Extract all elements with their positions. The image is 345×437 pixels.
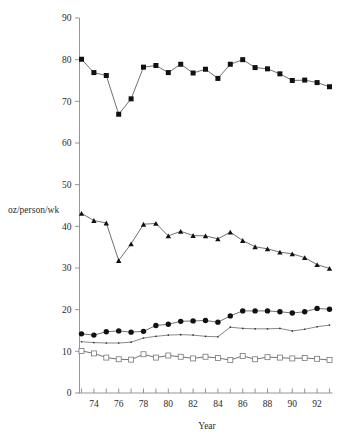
data-point-series-open-square-90: [290, 356, 295, 361]
data-point-series-filled-square-76: [116, 112, 121, 117]
data-point-series-open-square-78: [141, 352, 146, 357]
data-point-series-thin-dot-81: [180, 334, 182, 336]
data-point-series-thin-dot-85: [229, 326, 231, 328]
series-open-square: [79, 348, 332, 362]
data-point-series-filled-square-78: [141, 65, 146, 70]
data-point-series-open-square-93: [327, 358, 332, 363]
data-point-series-filled-square-90: [290, 78, 295, 83]
data-point-series-thin-dot-91: [304, 328, 306, 330]
data-point-series-thin-dot-74: [93, 342, 95, 344]
data-point-series-open-square-82: [191, 356, 196, 361]
series-filled-circle: [79, 306, 332, 338]
data-point-series-open-square-92: [315, 356, 320, 361]
y-tick-label-30: 30: [62, 263, 72, 273]
data-point-series-filled-circle-76: [116, 328, 121, 333]
y-axis-title: oz/person/wk: [8, 205, 59, 215]
data-point-series-filled-triangle-81: [178, 229, 183, 234]
x-tick-label-80: 80: [164, 399, 174, 409]
x-tick-label-76: 76: [114, 399, 124, 409]
series-thin-dot: [81, 324, 331, 344]
data-point-series-open-square-84: [215, 356, 220, 361]
data-point-series-open-square-85: [228, 358, 233, 363]
series-layer: [79, 57, 332, 363]
data-point-series-filled-square-87: [253, 65, 258, 70]
data-point-series-open-square-79: [153, 355, 158, 360]
data-point-series-filled-triangle-77: [128, 241, 133, 246]
data-point-series-thin-dot-76: [118, 342, 120, 344]
data-point-series-thin-dot-83: [205, 335, 207, 337]
data-point-series-open-square-81: [178, 354, 183, 359]
data-point-series-filled-square-73: [79, 57, 84, 62]
data-point-series-filled-circle-81: [178, 319, 183, 324]
data-point-series-filled-circle-78: [141, 329, 146, 334]
data-point-series-thin-dot-92: [316, 326, 318, 328]
data-point-series-filled-triangle-91: [302, 255, 307, 260]
data-point-series-thin-dot-93: [329, 324, 331, 326]
data-point-series-open-square-83: [203, 354, 208, 359]
data-point-series-filled-square-80: [166, 70, 171, 75]
data-point-series-filled-square-77: [129, 96, 134, 101]
data-point-series-filled-circle-73: [79, 331, 84, 336]
x-tick-label-92: 92: [312, 399, 322, 409]
data-point-series-filled-triangle-92: [314, 262, 319, 267]
y-tick-label-20: 20: [62, 305, 72, 315]
data-point-series-filled-square-86: [240, 57, 245, 62]
data-point-series-thin-dot-87: [254, 328, 256, 330]
data-point-series-thin-dot-86: [242, 328, 244, 330]
data-point-series-open-square-73: [79, 348, 84, 353]
x-tick-label-78: 78: [139, 399, 149, 409]
line-chart: 0102030405060708090 74767880828486889092…: [0, 0, 345, 437]
series-filled-triangle: [79, 211, 332, 271]
y-tick-label-0: 0: [67, 388, 72, 398]
data-point-series-filled-square-89: [277, 71, 282, 76]
data-point-series-filled-circle-90: [290, 310, 295, 315]
x-tick-label-84: 84: [213, 399, 223, 409]
data-point-series-filled-circle-75: [104, 329, 109, 334]
y-tick-label-70: 70: [62, 97, 72, 107]
data-point-series-thin-dot-79: [155, 335, 157, 337]
data-point-series-open-square-76: [116, 357, 121, 362]
y-tick-label-60: 60: [62, 138, 72, 148]
data-point-series-open-square-88: [265, 355, 270, 360]
data-point-series-thin-dot-84: [217, 336, 219, 338]
y-tick-label-50: 50: [62, 180, 72, 190]
data-point-series-filled-square-81: [178, 62, 183, 67]
data-point-series-open-square-89: [277, 355, 282, 360]
data-point-series-filled-circle-87: [252, 308, 257, 313]
data-point-series-filled-circle-82: [190, 318, 195, 323]
data-point-series-filled-square-83: [203, 67, 208, 72]
series-filled-square: [79, 57, 332, 117]
data-point-series-thin-dot-89: [279, 328, 281, 330]
x-axis: 74767880828486889092: [79, 389, 333, 409]
data-point-series-open-square-86: [240, 353, 245, 358]
data-point-series-filled-circle-83: [203, 318, 208, 323]
chart-container: 0102030405060708090 74767880828486889092…: [0, 0, 345, 437]
data-point-series-filled-triangle-76: [116, 258, 121, 263]
data-point-series-thin-dot-90: [291, 330, 293, 332]
y-tick-label-90: 90: [62, 13, 72, 23]
data-point-series-filled-circle-80: [166, 322, 171, 327]
data-point-series-filled-square-74: [91, 70, 96, 75]
data-point-series-open-square-77: [129, 357, 134, 362]
data-point-series-filled-square-82: [191, 71, 196, 76]
data-point-series-filled-circle-91: [302, 309, 307, 314]
data-point-series-thin-dot-77: [130, 341, 132, 343]
data-point-series-thin-dot-75: [105, 342, 107, 344]
x-tick-label-90: 90: [288, 399, 298, 409]
data-point-series-filled-square-75: [104, 73, 109, 78]
y-tick-label-40: 40: [62, 222, 72, 232]
data-point-series-filled-circle-74: [91, 332, 96, 337]
x-tick-label-88: 88: [263, 399, 273, 409]
x-tick-label-86: 86: [238, 399, 248, 409]
data-point-series-open-square-91: [302, 356, 307, 361]
data-point-series-thin-dot-78: [143, 337, 145, 339]
x-axis-title: Year: [198, 421, 216, 431]
series-thin-dot-line: [82, 325, 330, 343]
x-tick-label-74: 74: [89, 399, 99, 409]
data-point-series-filled-triangle-93: [327, 266, 332, 271]
data-point-series-filled-square-79: [153, 63, 158, 68]
data-point-series-filled-circle-88: [265, 308, 270, 313]
data-point-series-filled-circle-85: [228, 313, 233, 318]
data-point-series-thin-dot-73: [81, 341, 83, 343]
x-tick-label-82: 82: [188, 399, 198, 409]
